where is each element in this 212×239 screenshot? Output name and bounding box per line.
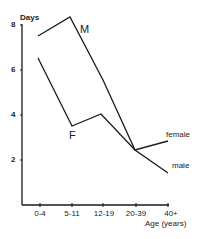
- x-tick-label: 12-19: [94, 209, 114, 218]
- x-axis-title: Age (years): [145, 219, 186, 228]
- line-chart: Days Age (years) 8 6 4 2 0-4 5-11 12-19 …: [0, 0, 212, 239]
- series-line-male: [38, 17, 168, 173]
- y-tick-label: 4: [11, 110, 15, 119]
- y-axis-title: Days: [20, 13, 39, 22]
- series-marker-male: M: [80, 23, 89, 35]
- x-tick-label: 20-39: [126, 209, 146, 218]
- x-tick-label: 5-11: [64, 209, 79, 218]
- y-tick-label: 6: [11, 65, 15, 74]
- y-tick-label: 2: [11, 155, 15, 164]
- y-tick-label: 8: [11, 20, 15, 29]
- series-end-label-male: male: [172, 161, 189, 170]
- x-tick-label: 0-4: [34, 209, 46, 218]
- chart-canvas: [0, 0, 212, 239]
- series-end-label-female: female: [166, 130, 190, 139]
- series-marker-female: F: [69, 129, 76, 141]
- x-tick-label: 40+: [164, 209, 178, 218]
- series-line-female: [38, 58, 168, 150]
